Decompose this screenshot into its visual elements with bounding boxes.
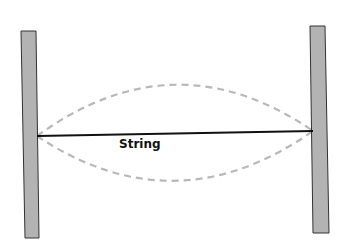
upper-vibration-arc [37, 85, 313, 136]
string-line [37, 131, 313, 136]
left-post [21, 31, 39, 238]
string-vibration-diagram: String [0, 0, 340, 249]
right-post [310, 26, 329, 233]
string-label: String [119, 137, 161, 151]
lower-vibration-arc [37, 131, 313, 181]
